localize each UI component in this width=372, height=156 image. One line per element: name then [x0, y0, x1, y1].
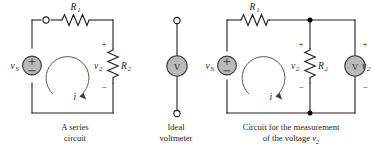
caption-ideal-voltmeter-line1: Ideal	[140, 122, 212, 133]
polarity-minus-r2: −	[101, 82, 106, 92]
m-resistor-r1-label: R	[249, 2, 256, 12]
caption-measurement-circuit-line2: of the voltage v2	[212, 133, 370, 147]
m-resistor-r2-icon	[305, 48, 315, 84]
caption-ideal-voltmeter-line2: voltmeter	[140, 133, 212, 144]
caption-series-circuit-line1: A series	[20, 122, 130, 133]
m-polarity-plus-r2: +	[298, 39, 303, 49]
panel-measurement-circuit: R 1 v S R 2 v 2 + − V v 2	[206, 2, 372, 116]
node-dot-bottom-icon	[308, 111, 313, 116]
m-polarity-minus-r2: −	[298, 82, 303, 92]
resistor-r2-sublabel: 2	[128, 65, 132, 72]
m-voltage-v2-meter-sublabel: 2	[367, 65, 371, 72]
voltmeter-label: V	[174, 62, 181, 72]
source-sublabel: S	[16, 65, 20, 72]
terminal-bottom-icon	[174, 110, 180, 116]
m-voltmeter-label: V	[352, 62, 359, 72]
caption-measurement-circuit-line1: Circuit for the measurement	[212, 122, 370, 133]
terminal-top-icon	[174, 17, 180, 23]
circuit-figure: R 1 v S R 2 v 2 + − i	[0, 0, 372, 156]
resistor-r1-icon	[62, 15, 91, 26]
resistor-r2-icon	[108, 48, 118, 84]
voltage-v2-sublabel: 2	[99, 65, 103, 72]
m-resistor-r1-icon	[241, 15, 270, 26]
caption-ideal-voltmeter: Ideal voltmeter	[140, 122, 212, 144]
m-source-sublabel: S	[211, 65, 215, 72]
m-polarity-minus-meter: −	[362, 82, 367, 92]
caption-series-circuit-line2: circuit	[20, 133, 130, 144]
current-label: i	[74, 92, 77, 102]
m-current-loop-arrow-icon	[242, 57, 285, 94]
current-arrow-head-icon	[79, 93, 86, 100]
m-resistor-r1-sublabel: 1	[256, 6, 259, 13]
current-loop-arrow-icon	[46, 57, 89, 94]
m-polarity-plus-meter: +	[362, 39, 367, 49]
m-current-label: i	[270, 92, 273, 102]
caption-measurement-circuit: Circuit for the measurement of the volta…	[212, 122, 370, 147]
polarity-plus-r2: +	[101, 39, 106, 49]
caption-series-circuit: A series circuit	[20, 122, 130, 144]
panel-ideal-voltmeter: V	[167, 17, 187, 116]
m-resistor-r2-sublabel: 2	[325, 65, 329, 72]
resistor-r1-sublabel: 1	[77, 6, 80, 13]
m-current-arrow-head-icon	[275, 93, 282, 100]
m-voltage-v2-resistor-sublabel: 2	[296, 65, 300, 72]
caption-measurement-prefix: of the voltage	[263, 133, 312, 143]
caption-measurement-sub: 2	[316, 138, 319, 145]
resistor-r2-label: R	[120, 61, 127, 71]
open-terminal-icon	[43, 17, 49, 23]
m-resistor-r2-label: R	[317, 61, 324, 71]
panel-series-circuit: R 1 v S R 2 v 2 + − i	[11, 2, 132, 114]
resistor-r1-label: R	[70, 2, 77, 12]
node-dot-top-icon	[308, 18, 313, 23]
